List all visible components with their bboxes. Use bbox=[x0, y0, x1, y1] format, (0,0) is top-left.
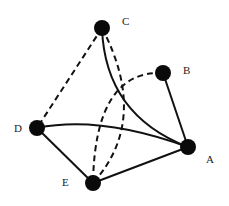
edge-b-a bbox=[163, 73, 188, 147]
graph-diagram: A B C D E bbox=[0, 0, 229, 206]
label-c: C bbox=[122, 15, 129, 27]
edge-c-a bbox=[102, 28, 188, 147]
label-a: A bbox=[206, 153, 214, 165]
edge-c-d bbox=[37, 28, 102, 128]
label-e: E bbox=[62, 176, 69, 188]
edge-d-e bbox=[37, 128, 93, 183]
node-e bbox=[85, 175, 101, 191]
label-d: D bbox=[14, 122, 22, 134]
node-c bbox=[94, 20, 110, 36]
label-b: B bbox=[183, 64, 190, 76]
node-b bbox=[155, 65, 171, 81]
node-a bbox=[180, 139, 196, 155]
edge-c-e bbox=[93, 28, 124, 183]
node-d bbox=[29, 120, 45, 136]
